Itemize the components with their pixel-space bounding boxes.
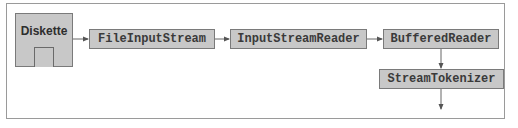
connector-arrows <box>0 0 518 128</box>
